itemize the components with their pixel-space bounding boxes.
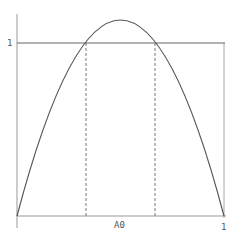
parabola-curve [17, 20, 224, 216]
x-axis-label: A0 [114, 220, 125, 230]
chart: 1 A0 1 [0, 0, 239, 237]
y-tick-label: 1 [7, 38, 12, 48]
x-tick-label: 1 [221, 222, 226, 232]
